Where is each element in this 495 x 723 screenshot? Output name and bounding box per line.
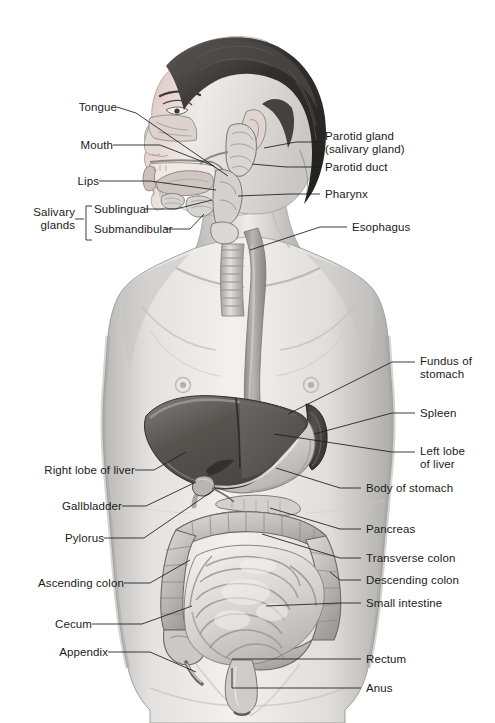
label-anus: Anus	[366, 682, 393, 695]
label-descending-colon: Descending colon	[366, 574, 459, 587]
label-small-intestine: Small intestine	[366, 597, 442, 610]
label-body-of-stomach: Body of stomach	[366, 482, 453, 495]
label-tongue: Tongue	[10, 101, 117, 114]
label-mouth: Mouth	[10, 139, 113, 152]
sublingual-gland-shape	[161, 194, 184, 209]
label-fundus-of-stomach-line2: stomach	[420, 368, 464, 381]
digestive-system-figure: Tongue Mouth Lips Salivary glands Sublin…	[0, 0, 495, 723]
label-esophagus: Esophagus	[352, 221, 410, 234]
label-pharynx: Pharynx	[325, 188, 368, 201]
label-salivary-glands-line2: glands	[6, 219, 75, 232]
label-parotid-gland: Parotid gland	[325, 130, 394, 143]
label-pancreas: Pancreas	[366, 523, 415, 536]
label-fundus-of-stomach-line1: Fundus of	[420, 355, 472, 368]
rectum	[225, 660, 257, 715]
label-submandibular: Submandibular	[94, 223, 173, 236]
label-spleen: Spleen	[420, 407, 456, 420]
larynx-shape	[211, 222, 239, 244]
label-right-lobe-of-liver: Right lobe of liver	[10, 464, 135, 477]
label-salivary-glands-line1: Salivary	[6, 206, 75, 219]
label-transverse-colon: Transverse colon	[366, 552, 455, 565]
label-gallbladder: Gallbladder	[10, 500, 122, 513]
label-sublingual: Sublingual	[94, 203, 149, 216]
label-rectum: Rectum	[366, 653, 406, 666]
label-left-lobe-of-liver-line1: Left lobe	[420, 445, 465, 458]
label-left-lobe-of-liver-line2: of liver	[420, 458, 455, 471]
label-pylorus: Pylorus	[10, 532, 104, 545]
label-parotid-gland-subtitle: (salivary gland)	[325, 143, 405, 156]
trachea	[220, 244, 244, 316]
label-appendix: Appendix	[10, 646, 108, 659]
label-parotid-duct: Parotid duct	[325, 161, 388, 174]
label-cecum: Cecum	[10, 618, 92, 631]
label-ascending-colon: Ascending colon	[10, 577, 124, 590]
label-lips: Lips	[10, 175, 99, 188]
